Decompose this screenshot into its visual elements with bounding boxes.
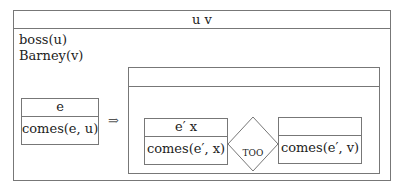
right-inner-drs-header: [279, 118, 361, 136]
relation-label: TOO: [228, 148, 278, 158]
right-inner-condition: comes(e′, v): [279, 140, 361, 155]
right-inner-drs-box: comes(e′, v): [278, 117, 362, 164]
